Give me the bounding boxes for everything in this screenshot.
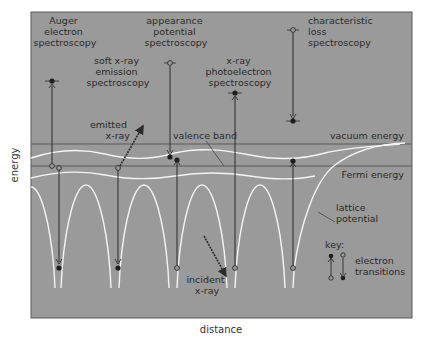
- label-vacuum-energy: vacuum energy: [330, 130, 404, 141]
- y-axis-label: energy: [9, 147, 20, 182]
- label-soft-xray-emission: soft x-ray emission spectroscopy: [87, 55, 150, 88]
- label-appearance-potential: appearance potential spectroscopy: [145, 15, 208, 48]
- diagram-canvas: Auger electron spectroscopy appearance p…: [0, 0, 424, 341]
- label-valence-band: valence band: [173, 130, 237, 141]
- x-axis-label: distance: [200, 324, 242, 335]
- key-title: key:: [325, 239, 344, 250]
- label-fermi-energy: Fermi energy: [341, 169, 404, 180]
